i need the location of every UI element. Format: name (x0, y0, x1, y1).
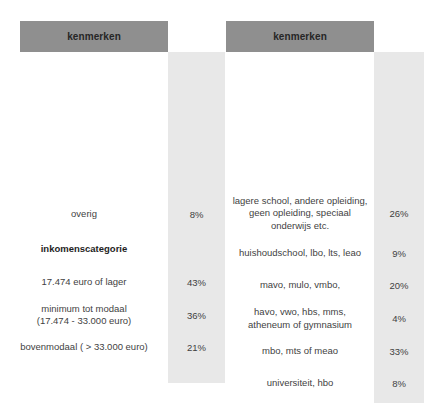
row-percentage-value: 8% (168, 209, 225, 220)
table-row: 17.474 euro of lager43% (0, 267, 226, 298)
row-label: 17.474 euro of lager (0, 276, 168, 289)
column-header-right-label: kenmerken (273, 31, 327, 42)
row-percentage-value: 8% (374, 378, 424, 389)
row-percentage-value: 9% (374, 248, 424, 259)
table-row: bovenmodaal ( > 33.000 euro)21% (0, 332, 226, 362)
rows-right: lagere school, andere opleiding,geen opl… (226, 190, 447, 400)
table-row: mavo, mulo, vmbo,20% (226, 270, 447, 301)
table-row: lagere school, andere opleiding,geen opl… (226, 190, 447, 237)
row-percentage-value: 20% (374, 280, 424, 291)
row-label: havo, vwo, hbs, mms,atheneum of gymnasiu… (226, 306, 374, 331)
row-percentage-value: 43% (168, 277, 225, 288)
column-header-right: kenmerken (226, 21, 374, 52)
panel-right-education: kenmerken lagere school, andere opleidin… (226, 0, 447, 403)
panel-left-income: kenmerken overig8%inkomenscategorie17.47… (0, 0, 226, 403)
row-label: bovenmodaal ( > 33.000 euro) (0, 341, 168, 354)
section-header-label: inkomenscategorie (0, 243, 168, 256)
table-row: minimum tot modaal(17.474 - 33.000 euro)… (0, 298, 226, 332)
table-row: mbo, mts of meao33% (226, 336, 447, 367)
table-row: inkomenscategorie (0, 232, 226, 267)
table-row: havo, vwo, hbs, mms,atheneum of gymnasiu… (226, 301, 447, 336)
row-label: overig (0, 208, 168, 221)
table-row: overig8% (0, 196, 226, 232)
column-header-left: kenmerken (20, 21, 168, 52)
row-percentage-value: 36% (168, 310, 225, 321)
table-row: huishoudschool, lbo, lts, leao9% (226, 237, 447, 270)
row-label: mbo, mts of meao (226, 345, 374, 358)
row-label: minimum tot modaal(17.474 - 33.000 euro) (0, 303, 168, 328)
row-label: lagere school, andere opleiding,geen opl… (226, 195, 374, 233)
characteristics-infographic: kenmerken overig8%inkomenscategorie17.47… (0, 0, 447, 403)
row-percentage-value: 26% (374, 208, 424, 219)
row-percentage-value: 4% (374, 313, 424, 324)
table-row: universiteit, hbo8% (226, 367, 447, 400)
row-label: mavo, mulo, vmbo, (226, 279, 374, 292)
row-percentage-value: 21% (168, 342, 225, 353)
row-percentage-value: 33% (374, 346, 424, 357)
row-label: huishoudschool, lbo, lts, leao (226, 247, 374, 260)
column-header-left-label: kenmerken (67, 31, 121, 42)
rows-left: overig8%inkomenscategorie17.474 euro of … (0, 196, 226, 362)
row-label: universiteit, hbo (226, 377, 374, 390)
